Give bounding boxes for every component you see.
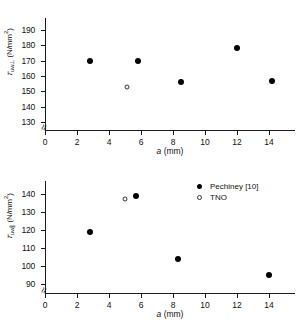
data-point — [175, 256, 181, 262]
y-axis-tick-label: 130 — [21, 117, 35, 127]
x-axis-tick: 10 — [205, 130, 206, 135]
open-circle-icon — [197, 195, 207, 200]
data-point — [266, 272, 272, 278]
x-axis-tick: 12 — [237, 130, 238, 135]
data-point — [269, 78, 275, 84]
x-axis-tick: 14 — [269, 293, 270, 298]
axis-break-symbol: ≈ — [38, 286, 50, 295]
data-point — [123, 197, 128, 202]
y-axis-tick-label: 150 — [21, 86, 35, 96]
x-axis-tick: 4 — [109, 293, 110, 298]
legend-item-label: TNO — [210, 193, 227, 202]
y-axis-tick-label: 90 — [26, 279, 35, 289]
y-axis-tick-label: 140 — [21, 102, 35, 112]
filled-circle-icon — [197, 184, 207, 189]
data-point — [87, 58, 93, 64]
y-axis-tick-label: 110 — [22, 243, 35, 253]
legend-item-label: Pechiney [10] — [210, 182, 258, 191]
y-axis-tick-label: 170 — [21, 56, 35, 66]
plot-area: ≈ — [45, 22, 285, 130]
legend-item: TNO — [197, 192, 258, 203]
x-axis-tick: 2 — [77, 293, 78, 298]
data-point — [178, 79, 184, 85]
y-axis-title-subscript: uw⊥ — [9, 60, 15, 72]
x-axis-tick: 8 — [173, 293, 174, 298]
x-axis-tick: 6 — [141, 130, 142, 135]
axis-break-symbol: ≈ — [38, 123, 50, 132]
data-point — [135, 58, 141, 64]
y-axis-tick-label: 160 — [21, 71, 35, 81]
x-axis-tick: 2 — [77, 130, 78, 135]
x-axis-tick: 14 — [269, 130, 270, 135]
legend: Pechiney [10]TNO — [197, 181, 258, 203]
x-axis-tick: 10 — [205, 293, 206, 298]
y-axis-tick-label: 130 — [21, 207, 35, 217]
data-point — [234, 45, 240, 51]
data-point — [124, 84, 129, 89]
x-axis-line: 02468101214 — [45, 130, 295, 131]
x-axis-tick: 4 — [109, 130, 110, 135]
x-axis-tick: 8 — [173, 130, 174, 135]
chart-tau-uw-perpendicular: 130140150160170180190 02468101214 𝜏uw⊥ (… — [0, 0, 306, 162]
y-axis-tick-label: 190 — [21, 25, 35, 35]
legend-item: Pechiney [10] — [197, 181, 258, 192]
y-axis-title: 𝜏uw⊥ (N/mm2) — [3, 28, 15, 76]
y-axis-title: 𝜏uw∥ (N/mm2) — [3, 193, 15, 239]
y-axis-title-subscript: uw∥ — [9, 225, 15, 235]
y-axis-tick-label: 180 — [21, 40, 35, 50]
x-axis-tick: 12 — [237, 293, 238, 298]
y-axis-tick-label: 100 — [21, 261, 35, 271]
y-axis-tick-label: 140 — [21, 189, 35, 199]
x-axis-line: 02468101214 — [45, 293, 295, 294]
data-point — [87, 229, 93, 235]
y-axis-tick-label: 120 — [21, 225, 35, 235]
x-axis-title: a (mm) — [45, 309, 295, 319]
x-axis-tick: 6 — [141, 293, 142, 298]
data-point — [133, 193, 139, 199]
x-axis-title: a (mm) — [45, 146, 295, 156]
chart-tau-uw-parallel: 90100110120130140 02468101214 𝜏uw∥ (N/mm… — [0, 163, 306, 325]
